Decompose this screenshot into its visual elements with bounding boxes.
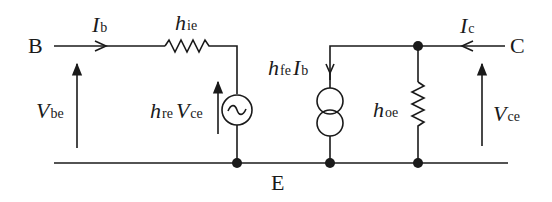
hie-resistor: [165, 40, 212, 52]
h-parameter-circuit: B C E Ib hie Vbe hreVce hfeIb hoe Ic Vce: [0, 0, 552, 202]
junction-dot: [413, 158, 423, 168]
hfe-current-source: [317, 73, 343, 163]
junction-dot: [232, 158, 242, 168]
ic-label: Ic: [459, 13, 475, 38]
hie-label: hie: [175, 10, 197, 35]
junction-dot: [413, 41, 423, 51]
hre-vce-label: hreVce: [150, 98, 203, 123]
hfe-ib-label: hfeIb: [268, 55, 308, 80]
hre-voltage-source: [222, 95, 252, 125]
collector-terminal-label: C: [510, 33, 525, 58]
hoe-resistor: [412, 82, 424, 130]
hie-to-source-wire: [212, 46, 237, 94]
base-terminal-label: B: [28, 33, 43, 58]
ac-tilde-icon: [228, 106, 246, 115]
junction-dot: [325, 158, 335, 168]
vbe-label: Vbe: [36, 98, 64, 123]
vce-label: Vce: [493, 101, 520, 126]
ib-label: Ib: [91, 12, 107, 37]
hoe-label: hoe: [373, 97, 398, 122]
emitter-terminal-label: E: [271, 170, 284, 195]
base-wire: [54, 41, 165, 51]
